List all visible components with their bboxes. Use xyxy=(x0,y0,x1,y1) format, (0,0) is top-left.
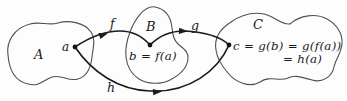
point-a-dot xyxy=(73,45,78,50)
function-g-label: g xyxy=(191,18,199,33)
set-a-label: A xyxy=(33,47,43,62)
set-a-blob xyxy=(8,22,94,85)
function-f-label: f xyxy=(109,16,117,31)
point-b-dot xyxy=(148,43,153,48)
arrow-g-head-icon xyxy=(179,28,188,35)
set-b-label: B xyxy=(145,19,156,34)
point-a-label: a xyxy=(62,40,69,54)
c-equation-line1-label: c = g(b) = g(f(a)) xyxy=(233,39,342,53)
arrow-g-curve xyxy=(150,31,229,45)
set-c-label: C xyxy=(253,17,263,32)
function-h-label: h xyxy=(107,80,115,95)
set-b-blob xyxy=(126,7,188,83)
arrow-h-head-icon xyxy=(153,88,162,95)
c-equation-line2-label: = h(a) xyxy=(283,52,322,66)
point-c-dot xyxy=(227,43,232,48)
b-equation-label: b = f(a) xyxy=(129,49,177,63)
arrow-f-curve xyxy=(75,31,150,47)
composition-diagram-canvas: A a f B g C b = f(a) c = g(b) = g(f(a)) … xyxy=(0,0,347,101)
composition-diagram-figure: A a f B g C b = f(a) c = g(b) = g(f(a)) … xyxy=(0,0,347,101)
